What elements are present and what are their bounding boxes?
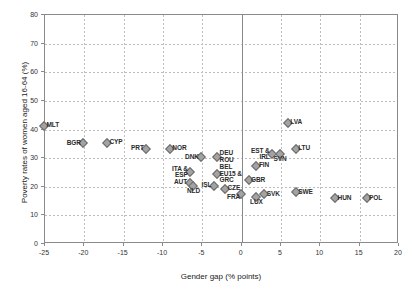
data-point: CZE [221, 185, 228, 192]
data-point: CYP [103, 139, 110, 146]
data-point: DEU ROU [214, 153, 221, 160]
x-tick-mark [398, 243, 399, 246]
data-point: ITA & ESP [187, 169, 194, 176]
y-tick-mark [41, 14, 44, 15]
gridline-vertical [320, 15, 321, 242]
x-tick-label: 15 [355, 249, 363, 256]
x-tick-label: 20 [394, 249, 402, 256]
gridline-horizontal [45, 101, 397, 102]
data-point-label: LTU [298, 145, 310, 152]
x-tick-label: -5 [198, 249, 204, 256]
data-point-label: EST & IRL [251, 148, 270, 161]
data-point: LVA [284, 119, 291, 126]
gridline-vertical [281, 15, 282, 242]
data-point-label: LUX [250, 199, 263, 206]
scatter-chart: Poverty rates of women aged 16-64 (%) Ge… [0, 0, 412, 295]
y-tick-label: 40 [14, 125, 38, 132]
x-tick-mark [319, 243, 320, 246]
data-point: SWE [292, 189, 299, 196]
y-tick-mark [41, 71, 44, 72]
x-tick-label: -20 [78, 249, 88, 256]
x-tick-label: -25 [39, 249, 49, 256]
y-tick-label: 20 [14, 182, 38, 189]
data-point: FIN [253, 162, 260, 169]
data-point-label: HUN [338, 195, 352, 202]
x-tick-mark [162, 243, 163, 246]
data-point: MLT [41, 122, 48, 129]
data-point-label: PRT [131, 145, 144, 152]
gridline-horizontal [45, 72, 397, 73]
y-tick-label: 50 [14, 96, 38, 103]
x-tick-mark [359, 243, 360, 246]
data-point-label: MLT [47, 122, 60, 129]
y-tick-label: 80 [14, 11, 38, 18]
data-point-label: BGR [67, 140, 81, 147]
data-point: SVN [277, 151, 284, 158]
y-tick-label: 0 [14, 240, 38, 247]
data-point-label: DNK [185, 154, 199, 161]
x-tick-mark [44, 243, 45, 246]
data-point: POL [363, 195, 370, 202]
data-point: NOR [166, 145, 173, 152]
data-point-label: SVK [267, 191, 280, 198]
data-point: PRT [143, 145, 150, 152]
y-tick-mark [41, 43, 44, 44]
gridline-vertical [360, 15, 361, 242]
data-point-label: FRA [227, 194, 240, 201]
gridline-vertical [163, 15, 164, 242]
data-point: NLD [190, 182, 197, 189]
gridline-vertical [124, 15, 125, 242]
axis-zero-line [242, 15, 243, 242]
x-axis-title: Gender gap (% points) [44, 272, 398, 281]
data-point-label: NOR [172, 145, 186, 152]
data-point: SVK [261, 191, 268, 198]
data-point-label: ISL [202, 183, 212, 190]
x-tick-mark [123, 243, 124, 246]
data-point-label: SVN [273, 156, 286, 163]
data-point-label: AUT [174, 180, 187, 187]
gridline-horizontal [45, 215, 397, 216]
x-tick-label: 10 [315, 249, 323, 256]
y-tick-label: 30 [14, 154, 38, 161]
y-tick-mark [41, 214, 44, 215]
data-point: HUN [332, 195, 339, 202]
data-point-label: CYP [109, 140, 122, 147]
x-tick-label: -15 [118, 249, 128, 256]
data-point-label: ITA & ESP [172, 166, 188, 179]
gridline-horizontal [45, 130, 397, 131]
gridline-vertical [202, 15, 203, 242]
y-tick-mark [41, 157, 44, 158]
y-tick-mark [41, 100, 44, 101]
data-point-label: BEL EU15 & GRC [220, 164, 242, 184]
data-point: BGR [80, 140, 87, 147]
data-point-label: GBR [251, 177, 265, 184]
data-point-label: FIN [259, 162, 269, 169]
y-tick-mark [41, 186, 44, 187]
data-point-label: NLD [187, 187, 200, 194]
y-tick-label: 60 [14, 68, 38, 75]
gridline-vertical [84, 15, 85, 242]
x-tick-mark [280, 243, 281, 246]
gridline-horizontal [45, 44, 397, 45]
data-point-label: LVA [290, 120, 302, 127]
data-point-label: POL [369, 195, 382, 202]
data-point: LTU [292, 145, 299, 152]
x-tick-label: -10 [157, 249, 167, 256]
data-point-label: SWE [298, 189, 313, 196]
x-tick-mark [241, 243, 242, 246]
x-tick-label: 0 [239, 249, 243, 256]
x-tick-mark [83, 243, 84, 246]
x-tick-mark [201, 243, 202, 246]
x-tick-label: 5 [278, 249, 282, 256]
data-point: FRA [237, 191, 244, 198]
data-point-label: DEU ROU [220, 150, 234, 163]
data-point: GBR [245, 177, 252, 184]
data-point: BEL EU15 & GRC [214, 170, 221, 177]
data-point: DNK [198, 154, 205, 161]
y-tick-label: 70 [14, 39, 38, 46]
data-point: ISL [210, 182, 217, 189]
plot-area [44, 14, 398, 243]
y-tick-label: 10 [14, 211, 38, 218]
